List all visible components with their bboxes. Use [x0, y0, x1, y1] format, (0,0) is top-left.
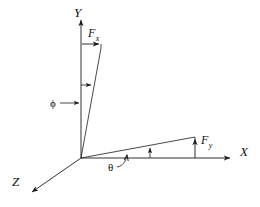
fy-subscript: y — [209, 141, 213, 150]
fx-base-letter: F — [88, 26, 95, 40]
phi-angle-label: ϕ — [50, 98, 56, 109]
plane-force-vector — [81, 137, 195, 158]
fx-vector-label: Fx — [88, 27, 99, 42]
upper-force-vector — [81, 48, 101, 158]
theta-label-arrow — [117, 155, 127, 167]
z-axis-label: Z — [12, 175, 19, 188]
theta-angle-label: θ — [108, 162, 113, 173]
fy-vector-label: Fy — [201, 134, 212, 149]
fx-subscript: x — [96, 34, 100, 43]
x-axis-label: X — [240, 145, 248, 158]
y-axis-label: Y — [74, 6, 81, 19]
coordinate-system-drawing — [0, 0, 260, 207]
fy-base-letter: F — [201, 133, 208, 147]
z-axis — [32, 158, 81, 192]
vector-diagram-figure: Y X Z Fx Fy ϕ θ — [0, 0, 260, 207]
